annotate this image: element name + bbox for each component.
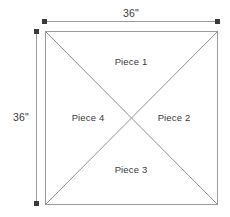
piece-label-1: Piece 1 [115, 57, 148, 67]
dimension-label-width: 36" [123, 8, 139, 19]
dimension-line-top [42, 19, 220, 24]
dimension-top-end-endpoint [215, 19, 220, 24]
figure-canvas [0, 0, 230, 217]
piece-label-4: Piece 4 [72, 113, 105, 123]
piece-label-3: Piece 3 [115, 165, 148, 175]
piece-label-2: Piece 2 [158, 113, 191, 123]
dimension-left-start-endpoint [34, 29, 39, 34]
dimension-label-height: 36" [13, 112, 29, 123]
dimension-line-left [34, 29, 39, 206]
dimension-left-end-endpoint [34, 201, 39, 206]
dimension-top-start-endpoint [42, 19, 47, 24]
geometry-figure: 36" 36" Piece 1 Piece 2 Piece 3 Piece 4 [0, 0, 230, 217]
